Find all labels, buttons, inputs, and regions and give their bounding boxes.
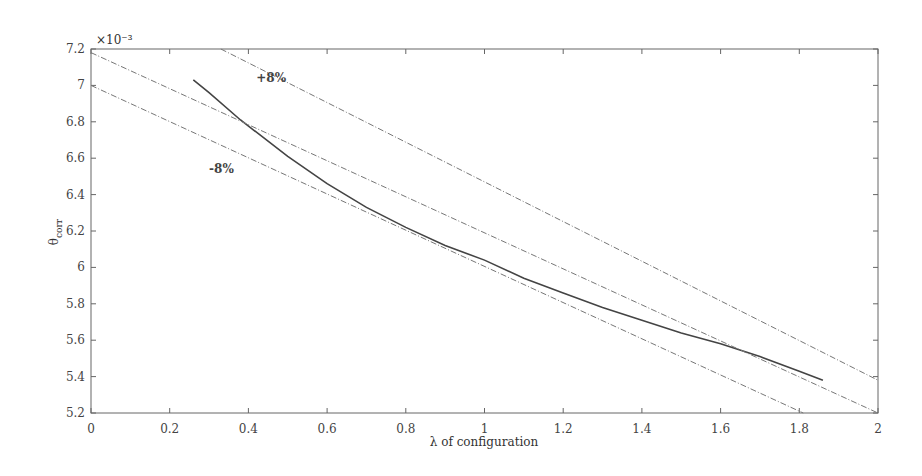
x-tick-label: 1.4 <box>632 422 651 436</box>
y-axis-label: θcorr <box>47 218 64 245</box>
x-tick-label: 0.2 <box>160 422 179 436</box>
dashed-line <box>91 85 803 413</box>
annotation-label: -8% <box>209 162 234 176</box>
y-tick-label: 5.4 <box>66 370 85 384</box>
y-tick-label: 5.2 <box>66 406 85 420</box>
x-tick-label: 1.8 <box>790 422 809 436</box>
x-tick-label: 2 <box>874 422 882 436</box>
y-multiplier: ×10⁻³ <box>96 33 133 47</box>
chart: 00.20.40.60.811.21.41.61.825.25.45.65.86… <box>0 0 922 476</box>
y-tick-label: 5.6 <box>66 333 85 347</box>
y-tick-label: 7 <box>77 78 85 92</box>
annotation-label: +8% <box>256 71 286 85</box>
y-tick-label: 6.4 <box>66 188 85 202</box>
x-tick-label: 1.6 <box>711 422 730 436</box>
svg-text:θcorr: θcorr <box>47 218 64 245</box>
x-tick-label: 1.2 <box>554 422 573 436</box>
x-tick-label: 1 <box>481 422 489 436</box>
x-tick-label: 0.8 <box>396 422 415 436</box>
x-tick-label: 0.4 <box>239 422 258 436</box>
y-tick-label: 5.8 <box>66 297 85 311</box>
x-tick-label: 0.6 <box>318 422 337 436</box>
dashed-line <box>91 53 878 413</box>
data-curve <box>193 80 823 380</box>
x-axis-label: λ of configuration <box>430 435 539 449</box>
y-tick-label: 6.8 <box>66 115 85 129</box>
dashed-line <box>221 49 878 380</box>
x-tick-label: 0 <box>87 422 95 436</box>
plot-frame <box>91 49 878 413</box>
plot-area: 00.20.40.60.811.21.41.61.825.25.45.65.86… <box>66 42 882 436</box>
y-tick-label: 7.2 <box>66 42 85 56</box>
y-tick-label: 6.6 <box>66 151 85 165</box>
y-tick-label: 6.2 <box>66 224 85 238</box>
y-tick-label: 6 <box>77 260 85 274</box>
